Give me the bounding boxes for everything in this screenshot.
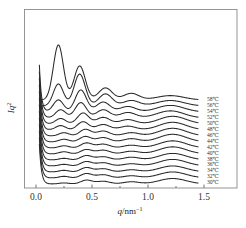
curve-54c: [39, 65, 198, 111]
curve-52c: [39, 71, 198, 117]
curve-46c: [39, 91, 198, 136]
curve-56c: [39, 74, 198, 106]
x-tick-label: 1.0: [142, 192, 154, 202]
x-axis-ticks: 0.00.51.01.5: [30, 185, 210, 203]
saxs-stacked-line-chart: 0.00.51.01.5 58℃56℃54℃52℃50℃48℃46℃44℃42℃…: [0, 0, 246, 228]
curve-32c: [39, 137, 198, 177]
temperature-labels: 58℃56℃54℃52℃50℃48℃46℃44℃42℃40℃38℃36℃34℃3…: [207, 96, 219, 185]
plot-frame: [25, 10, 238, 189]
x-tick-label: 0.5: [86, 192, 98, 202]
y-axis-label: Iq2: [6, 103, 16, 115]
x-tick-label: 0.0: [30, 192, 42, 202]
temperature-label: 30℃: [207, 179, 219, 185]
curve-38c: [39, 118, 198, 160]
x-axis-label: q/nm−1: [118, 206, 143, 216]
curve-36c: [39, 124, 198, 166]
curve-group: [39, 45, 198, 184]
x-tick-label: 1.5: [198, 192, 210, 202]
